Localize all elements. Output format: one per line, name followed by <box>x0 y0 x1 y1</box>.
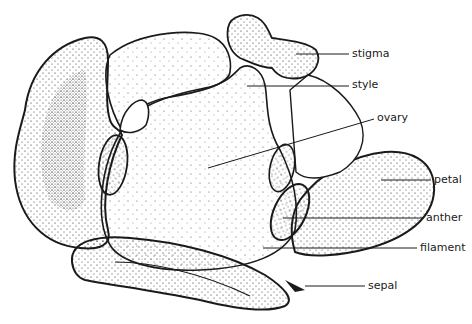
label-petal: petal <box>434 174 462 186</box>
label-stigma: stigma <box>352 48 390 60</box>
flower-illustration <box>0 0 472 324</box>
label-filament: filament <box>420 242 466 254</box>
label-ovary: ovary <box>377 112 408 124</box>
label-anther: anther <box>426 212 462 224</box>
sepal-shape <box>285 280 305 292</box>
label-sepal: sepal <box>368 280 397 292</box>
label-style: style <box>352 79 378 91</box>
flower-diagram: stigma style ovary petal anther filament… <box>0 0 472 324</box>
